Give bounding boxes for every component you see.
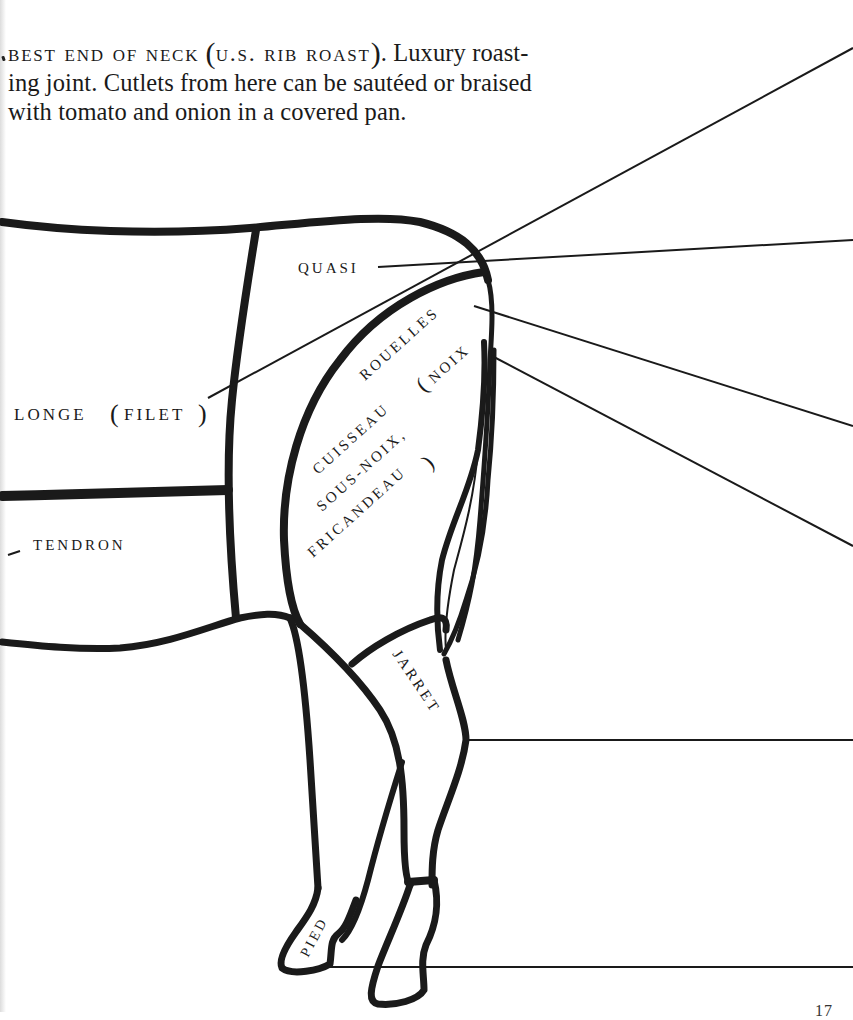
tendron-divider bbox=[2, 490, 228, 496]
label-longe-paren-open: ( bbox=[110, 399, 119, 428]
label-jarret: JARRET bbox=[390, 647, 444, 716]
jarret-outline bbox=[432, 660, 466, 885]
leader-line-quasi bbox=[378, 240, 853, 267]
right-foot-outline bbox=[371, 880, 437, 1004]
leader-line-tendron bbox=[8, 551, 20, 555]
page-number: 17 bbox=[815, 1002, 833, 1020]
label-quasi: QUASI bbox=[298, 260, 359, 276]
label-fricandeau-paren-close: ) bbox=[417, 450, 439, 473]
label-longe-paren-close: ) bbox=[198, 399, 207, 428]
belly-outline bbox=[2, 614, 290, 648]
rear-leg-line bbox=[290, 618, 318, 888]
label-cuisseau: CUISSEAU bbox=[309, 400, 392, 477]
hock-band bbox=[408, 880, 434, 882]
leader-line-rouelles bbox=[474, 306, 853, 426]
label-longe: LONGE bbox=[14, 405, 87, 424]
back-outline bbox=[2, 219, 488, 280]
label-tendron: TENDRON bbox=[33, 537, 126, 553]
longe-divider bbox=[229, 230, 256, 618]
label-longe-filet: FILET bbox=[124, 405, 185, 424]
leader-line-cuisseau bbox=[492, 356, 853, 546]
inner-muscle-1 bbox=[437, 342, 484, 650]
label-cuisseau-noix: NOIX bbox=[425, 341, 472, 386]
label-longe-group: LONGE ( FILET ) bbox=[14, 399, 207, 428]
